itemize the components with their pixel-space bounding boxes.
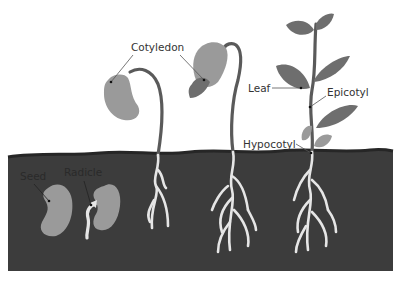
pointer-radicle [90, 204, 93, 207]
label-cotyledon: Cotyledon [131, 41, 184, 53]
pointer-epicotyl [309, 106, 312, 109]
pointer-leaf [300, 87, 303, 90]
label-hypocotyl: Hypocotyl [243, 138, 296, 150]
cotyledon-stage-3 [104, 74, 139, 120]
pointer-seed [48, 200, 51, 203]
label-radicle: Radicle [64, 166, 102, 178]
stem-stage-5 [311, 24, 316, 152]
pointer-cotyledon-1 [110, 81, 113, 84]
label-leaf: Leaf [248, 82, 271, 94]
pointer-hypocotyl [310, 152, 313, 155]
cotyledons-stage-5 [302, 126, 332, 148]
label-seed: Seed [20, 170, 46, 182]
germination-diagram: Seed Radicle [0, 0, 405, 283]
label-epicotyl: Epicotyl [327, 86, 369, 98]
pointer-cotyledon-2 [203, 79, 206, 82]
cotyledon-inner-stage-4 [189, 78, 210, 98]
